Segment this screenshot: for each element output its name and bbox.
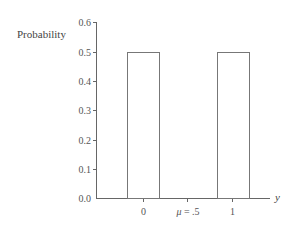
y-tick-labels: 0.6 0.5 0.4 0.3 0.2 0.1 0.0 bbox=[79, 17, 92, 204]
mu-value: = .5 bbox=[181, 206, 199, 217]
ytick-0.1: 0.1 bbox=[79, 164, 92, 175]
x-axis-title: y bbox=[274, 191, 280, 203]
ytick-0.4: 0.4 bbox=[79, 76, 92, 87]
ytick-0.0: 0.0 bbox=[79, 193, 92, 204]
bar-y-0 bbox=[128, 53, 160, 199]
xtick-mean: μ = .5 bbox=[175, 206, 199, 217]
xtick-1: 1 bbox=[230, 206, 235, 217]
bar-y-1 bbox=[218, 53, 250, 199]
ytick-0.2: 0.2 bbox=[79, 135, 92, 146]
ytick-0.6: 0.6 bbox=[79, 17, 92, 28]
xtick-0: 0 bbox=[141, 206, 146, 217]
ytick-0.3: 0.3 bbox=[79, 105, 92, 116]
y-axis-title: Probability bbox=[17, 28, 66, 40]
ytick-0.5: 0.5 bbox=[79, 47, 92, 58]
probability-bar-chart: 0.6 0.5 0.4 0.3 0.2 0.1 0.0 Probability … bbox=[0, 0, 289, 226]
